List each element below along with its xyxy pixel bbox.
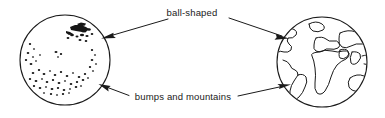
left-ball-outline bbox=[20, 15, 110, 105]
right-earth-globe bbox=[275, 17, 377, 107]
arrow-bottom-left bbox=[99, 84, 130, 96]
arrow-bottom-right bbox=[238, 84, 291, 96]
arrow-top-right bbox=[229, 18, 289, 40]
label-ball-shaped: ball-shaped bbox=[167, 7, 218, 18]
label-bumps-and-mountains: bumps and mountains bbox=[135, 91, 231, 102]
arrow-top-left bbox=[101, 19, 168, 39]
diagram-canvas: ball-shaped bumps and mountains bbox=[0, 0, 385, 118]
left-speckled-ball bbox=[20, 15, 110, 105]
diagram-figure: ball-shaped bumps and mountains bbox=[0, 0, 385, 118]
